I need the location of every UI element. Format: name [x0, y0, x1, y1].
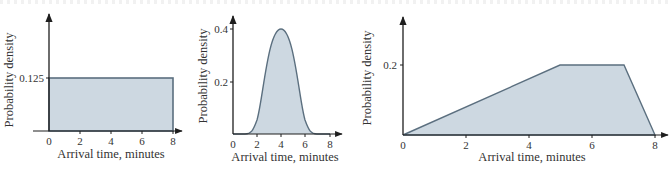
- x-tick-label: 6: [302, 138, 308, 150]
- y-tick-label: 0.4: [214, 23, 228, 35]
- trapezoid-density-area: [403, 65, 655, 135]
- x-tick-label: 2: [463, 139, 469, 151]
- normal-density-area: [233, 29, 330, 134]
- x-tick-label: 2: [254, 138, 260, 150]
- chart-trapezoid: 0 2 4 6 8 0.2 Arrival time, minutes Prob…: [360, 17, 668, 164]
- x-tick-label: 4: [278, 138, 284, 150]
- chart-normal: 0 2 4 6 8 0.2 0.4 Arrival time, minutes …: [196, 16, 342, 164]
- x-tick-label: 0: [230, 138, 236, 150]
- y-axis-title: Probability density: [360, 30, 374, 126]
- x-tick-label: 8: [652, 139, 658, 151]
- y-tick-label: 0.2: [214, 76, 228, 88]
- x-axis-title: Arrival time, minutes: [231, 150, 338, 164]
- x-tick-label: 8: [327, 138, 333, 150]
- x-tick-label: 0: [400, 139, 406, 151]
- x-axis-title: Arrival time, minutes: [57, 147, 164, 161]
- y-axis-title: Probability density: [2, 32, 16, 128]
- x-tick-label: 8: [170, 135, 176, 147]
- x-tick-label: 0: [46, 135, 52, 147]
- x-tick-label: 4: [108, 135, 114, 147]
- y-axis-title: Probability density: [196, 28, 210, 124]
- chart-uniform: 0 2 4 6 8 0.125 Arrival time, minutes Pr…: [2, 14, 182, 161]
- x-tick-label: 6: [589, 139, 595, 151]
- x-tick-label: 6: [139, 135, 145, 147]
- x-axis-title: Arrival time, minutes: [478, 150, 585, 164]
- x-tick-label: 2: [77, 135, 83, 147]
- figure: 0 2 4 6 8 0.125 Arrival time, minutes Pr…: [0, 0, 670, 170]
- y-tick-label: 0.2: [383, 59, 397, 71]
- y-tick-label: 0.125: [19, 72, 44, 84]
- uniform-density-area: [49, 78, 173, 131]
